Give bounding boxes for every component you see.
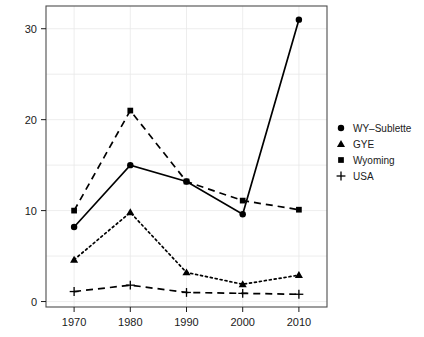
legend-entry-usa[interactable]: USA xyxy=(337,171,374,182)
x-tick-label-1970: 1970 xyxy=(62,316,86,328)
legend-0-marker-circle xyxy=(338,125,344,131)
datapoint-3-0-marker-plus xyxy=(70,287,79,296)
datapoint-3-3-marker-plus xyxy=(238,289,247,298)
legend-1-marker-triangle xyxy=(337,140,345,147)
legend-label-1: GYE xyxy=(353,139,374,150)
legend-2-marker-square xyxy=(338,157,344,163)
x-tick-label-2000: 2000 xyxy=(230,316,254,328)
datapoint-3-2-marker-plus xyxy=(182,288,191,297)
datapoint-0-4-marker-circle xyxy=(296,16,302,22)
y-tick-label-30: 30 xyxy=(25,23,37,35)
legend-label-0: WY–Sublette xyxy=(353,123,412,134)
datapoint-1-4-marker-triangle xyxy=(295,271,303,278)
datapoint-2-1-marker-square xyxy=(127,108,133,114)
gridlines xyxy=(46,6,327,307)
y-tick-label-10: 10 xyxy=(25,205,37,217)
chart-container: 010203019701980199020002010WY–SubletteGY… xyxy=(0,0,424,337)
datapoint-2-3-marker-square xyxy=(240,198,246,204)
legend: WY–SubletteGYEWyomingUSA xyxy=(337,123,412,182)
x-tick-label-2010: 2010 xyxy=(287,316,311,328)
datapoint-0-0-marker-circle xyxy=(71,224,77,230)
legend-entry-gye[interactable]: GYE xyxy=(337,139,375,150)
datapoint-1-0-marker-triangle xyxy=(70,256,78,263)
legend-label-3: USA xyxy=(353,171,374,182)
x-tick-label-1980: 1980 xyxy=(118,316,142,328)
x-tick-label-1990: 1990 xyxy=(174,316,198,328)
datapoint-3-1-marker-plus xyxy=(126,281,135,290)
datapoint-1-1-marker-triangle xyxy=(126,208,134,215)
datapoint-2-2-marker-square xyxy=(184,179,190,185)
datapoint-3-4-marker-plus xyxy=(294,290,303,299)
datapoint-2-0-marker-square xyxy=(71,208,77,214)
line-chart: 010203019701980199020002010WY–SubletteGY… xyxy=(0,0,424,337)
datapoint-0-1-marker-circle xyxy=(127,162,133,168)
datapoint-2-4-marker-square xyxy=(296,207,302,213)
legend-3-marker-plus xyxy=(337,172,346,181)
y-tick-label-0: 0 xyxy=(31,296,37,308)
legend-entry-wy-sublette[interactable]: WY–Sublette xyxy=(338,123,412,134)
legend-entry-wyoming[interactable]: Wyoming xyxy=(338,155,394,166)
datapoint-0-3-marker-circle xyxy=(239,211,245,217)
y-tick-label-20: 20 xyxy=(25,114,37,126)
legend-label-2: Wyoming xyxy=(353,155,395,166)
